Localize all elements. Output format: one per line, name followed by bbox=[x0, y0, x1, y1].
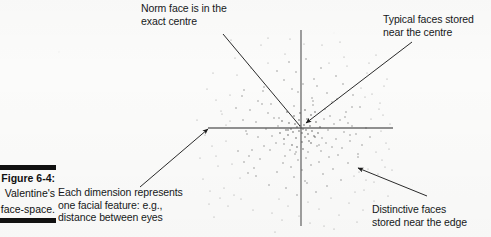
scatter-point bbox=[316, 85, 317, 86]
callout-leader-lines bbox=[140, 34, 427, 196]
scatter-point bbox=[307, 201, 308, 202]
scatter-point bbox=[323, 118, 324, 119]
scatter-point bbox=[335, 138, 336, 139]
scatter-point bbox=[326, 185, 327, 186]
scatter-point bbox=[288, 61, 289, 62]
scatter-point bbox=[208, 203, 209, 204]
figure-caption-block: Figure 6-4: Valentine's face-space. bbox=[0, 165, 56, 223]
scatter-point bbox=[387, 195, 388, 196]
scatter-point bbox=[311, 97, 312, 98]
scatter-point bbox=[285, 129, 287, 131]
callout-line-each-dimension bbox=[140, 129, 208, 187]
scatter-point bbox=[283, 138, 285, 140]
scatter-point bbox=[276, 70, 277, 71]
scatter-point bbox=[321, 44, 322, 45]
scatter-point bbox=[233, 194, 234, 195]
scatter-point bbox=[204, 134, 205, 135]
scatter-point bbox=[252, 209, 253, 210]
scatter-point bbox=[291, 88, 292, 89]
scatter-point bbox=[257, 100, 258, 101]
scatter-point bbox=[335, 75, 336, 76]
scatter-point bbox=[391, 169, 392, 170]
scatter-point bbox=[378, 108, 379, 109]
scatter-point bbox=[318, 208, 319, 209]
scatter-point bbox=[219, 197, 220, 198]
scatter-point bbox=[315, 191, 316, 192]
scatter-point bbox=[386, 78, 387, 79]
scatter-point bbox=[265, 128, 266, 129]
scatter-point bbox=[212, 72, 213, 73]
scatter-point bbox=[303, 43, 304, 44]
scatter-point bbox=[310, 164, 311, 165]
scatter-point bbox=[296, 194, 297, 195]
scatter-point bbox=[318, 144, 319, 145]
scatter-point bbox=[307, 151, 308, 152]
callout-line-norm-face bbox=[223, 34, 300, 126]
scatter-point bbox=[305, 157, 306, 158]
scatter-point bbox=[357, 156, 358, 157]
scatter-point bbox=[290, 128, 292, 130]
scatter-point bbox=[294, 123, 296, 125]
scatter-point bbox=[247, 172, 248, 173]
scatter-point bbox=[317, 132, 319, 134]
scatter-point bbox=[249, 109, 250, 110]
scatter-point bbox=[271, 212, 272, 213]
scatter-point bbox=[302, 148, 304, 150]
scatter-point bbox=[351, 125, 352, 126]
scatter-point bbox=[269, 149, 270, 150]
scatter-point bbox=[332, 168, 333, 169]
scatter-point bbox=[290, 166, 291, 167]
scatter-point bbox=[220, 110, 221, 111]
scatter-point bbox=[380, 130, 381, 131]
scatter-point bbox=[363, 189, 364, 190]
scatter-point bbox=[283, 143, 284, 144]
scatter-point bbox=[318, 161, 319, 162]
scatter-point bbox=[304, 109, 306, 111]
scatter-point bbox=[255, 121, 256, 122]
scatter-point bbox=[377, 173, 378, 174]
scatter-point bbox=[296, 146, 298, 148]
scatter-point bbox=[304, 136, 306, 138]
scatter-point bbox=[364, 96, 365, 97]
scatter-point bbox=[333, 228, 334, 229]
scatter-point bbox=[384, 166, 385, 167]
scatter-point bbox=[242, 119, 243, 120]
scatter-point bbox=[327, 129, 328, 130]
scatter-point bbox=[301, 169, 302, 170]
scatter-point bbox=[347, 122, 348, 123]
scatter-point bbox=[284, 53, 285, 54]
scatter-point bbox=[213, 216, 214, 217]
scatter-point bbox=[311, 130, 313, 132]
scatter-point bbox=[267, 62, 268, 63]
scatter-point bbox=[303, 124, 305, 126]
scatter-point bbox=[217, 165, 218, 166]
scatter-point bbox=[340, 179, 341, 180]
figure-page: Norm face is in the exact centre Typical… bbox=[0, 0, 491, 237]
scatter-point bbox=[211, 145, 212, 146]
scatter-point bbox=[263, 86, 264, 87]
scatter-point bbox=[229, 120, 230, 121]
scatter-point bbox=[298, 215, 299, 216]
scatter-point bbox=[267, 37, 268, 38]
figure-number-label: Figure 6-4: bbox=[0, 170, 56, 185]
scatter-point bbox=[371, 93, 372, 94]
scatter-point bbox=[209, 190, 210, 191]
scatter-point bbox=[383, 85, 384, 86]
scatter-point bbox=[293, 115, 295, 117]
scatter-point bbox=[361, 144, 362, 145]
scatter-point bbox=[260, 44, 261, 45]
scatter-point bbox=[276, 171, 277, 172]
scatter-point bbox=[281, 120, 283, 122]
scatter-point bbox=[291, 144, 293, 146]
scatter-point bbox=[196, 119, 197, 120]
scatter-point bbox=[259, 158, 260, 159]
scatter-point bbox=[319, 126, 321, 128]
scatter-point bbox=[346, 65, 347, 66]
scatter-point bbox=[297, 159, 298, 160]
scatter-point bbox=[305, 129, 307, 131]
scatter-point bbox=[267, 112, 268, 113]
scatter-point bbox=[261, 103, 262, 104]
scatter-point bbox=[302, 83, 303, 84]
caption-rule-bottom bbox=[0, 218, 56, 223]
scatter-point bbox=[313, 78, 314, 79]
